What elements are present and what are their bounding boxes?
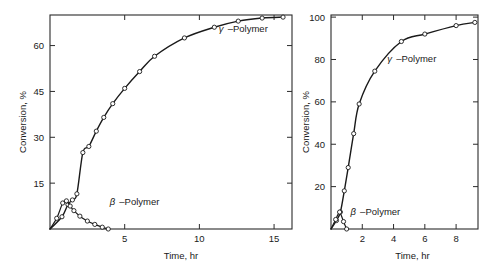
data-point-marker <box>68 204 72 208</box>
gamma-polymer-label: γ –Polymer <box>219 23 268 34</box>
data-point-marker <box>454 23 458 27</box>
data-point-marker <box>87 144 91 148</box>
x-axis-title: Time, hr <box>164 250 198 261</box>
gamma-polymer-curve <box>50 17 283 229</box>
right-panel-svg: 204060801002468Time, hrConversion, %γ –P… <box>300 0 488 264</box>
y-tick-label: 15 <box>33 178 44 189</box>
chart-panel-left: 1530456051015Time, hrConversion, %γ –Pol… <box>0 0 300 264</box>
x-axis-title: Time, hr <box>395 250 429 261</box>
y-axis-title: Conversion, % <box>300 91 311 153</box>
data-point-marker <box>72 209 76 213</box>
y-tick-label: 20 <box>314 181 325 192</box>
data-point-marker <box>81 150 85 154</box>
data-point-marker <box>346 165 350 169</box>
data-point-marker <box>345 227 349 231</box>
y-tick-label: 80 <box>314 54 325 65</box>
data-point-marker <box>138 69 142 73</box>
data-point-marker <box>341 219 345 223</box>
data-point-marker <box>182 36 186 40</box>
data-point-marker <box>334 217 338 221</box>
beta-polymer-label: β –Polymer <box>109 196 160 207</box>
x-tick-label: 6 <box>422 233 427 244</box>
data-point-marker <box>75 192 79 196</box>
beta-polymer-label: β –Polymer <box>350 206 401 217</box>
left-panel-svg: 1530456051015Time, hrConversion, %γ –Pol… <box>0 0 300 264</box>
data-point-marker <box>93 222 97 226</box>
gamma-polymer-label: γ –Polymer <box>387 53 436 64</box>
data-point-marker <box>212 25 216 29</box>
y-axis-title: Conversion, % <box>17 91 28 153</box>
y-tick-label: 60 <box>314 96 325 107</box>
data-point-marker <box>342 189 346 193</box>
x-tick-label: 4 <box>391 233 396 244</box>
y-tick-label: 45 <box>33 86 44 97</box>
chart-panel-right: 204060801002468Time, hrConversion, %γ –P… <box>300 0 488 264</box>
data-point-marker <box>78 214 82 218</box>
x-tick-label: 5 <box>122 233 127 244</box>
data-point-marker <box>85 219 89 223</box>
x-tick-label: 8 <box>453 233 458 244</box>
data-point-marker <box>152 54 156 58</box>
data-point-marker <box>260 16 264 20</box>
data-point-marker <box>473 20 477 24</box>
data-point-marker <box>102 115 106 119</box>
data-point-marker <box>373 69 377 73</box>
data-point-marker <box>64 199 68 203</box>
data-point-marker <box>70 198 74 202</box>
data-point-marker <box>100 225 104 229</box>
plot-frame <box>50 15 292 229</box>
data-point-marker <box>423 32 427 36</box>
x-tick-label: 2 <box>360 233 365 244</box>
y-tick-label: 40 <box>314 139 325 150</box>
data-point-marker <box>352 132 356 136</box>
y-tick-label: 60 <box>33 40 44 51</box>
figure-container: 1530456051015Time, hrConversion, %γ –Pol… <box>0 0 488 264</box>
y-tick-label: 30 <box>33 132 44 143</box>
data-point-marker <box>106 227 110 231</box>
data-point-marker <box>55 216 59 220</box>
y-tick-label: 100 <box>309 12 325 23</box>
plot-frame <box>331 15 478 229</box>
x-tick-label: 10 <box>194 233 205 244</box>
data-point-marker <box>94 129 98 133</box>
data-point-marker <box>399 39 403 43</box>
x-tick-label: 15 <box>269 233 280 244</box>
data-point-marker <box>111 102 115 106</box>
data-point-marker <box>281 15 285 19</box>
data-point-marker <box>60 215 64 219</box>
data-point-marker <box>123 86 127 90</box>
data-point-marker <box>338 210 342 214</box>
data-point-marker <box>357 102 361 106</box>
